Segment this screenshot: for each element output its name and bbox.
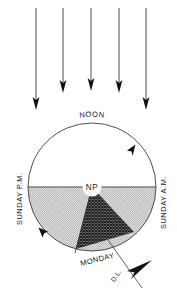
sun-ray-4 bbox=[116, 8, 123, 93]
earth-date-line-illustration: NOON NP SU bbox=[0, 0, 177, 290]
date-line-label: D.L. bbox=[109, 268, 122, 283]
daylight-hemisphere bbox=[28, 123, 156, 187]
sun-rays-group bbox=[33, 8, 150, 110]
sunday-pm-label: SUNDAY P.M. bbox=[15, 173, 24, 225]
monday-label: MONDAY bbox=[79, 251, 115, 268]
sun-ray-1 bbox=[33, 8, 40, 110]
north-pole-label: NP bbox=[86, 183, 98, 192]
date-line-arrow-icon bbox=[127, 260, 152, 279]
sun-ray-2 bbox=[60, 8, 67, 93]
date-line-diagram: NOON NP SU bbox=[0, 0, 177, 290]
noon-label: NOON bbox=[79, 110, 105, 120]
sun-ray-3 bbox=[88, 8, 95, 91]
sun-ray-5 bbox=[143, 8, 150, 110]
sunday-am-label: SUNDAY A.M. bbox=[159, 176, 168, 229]
